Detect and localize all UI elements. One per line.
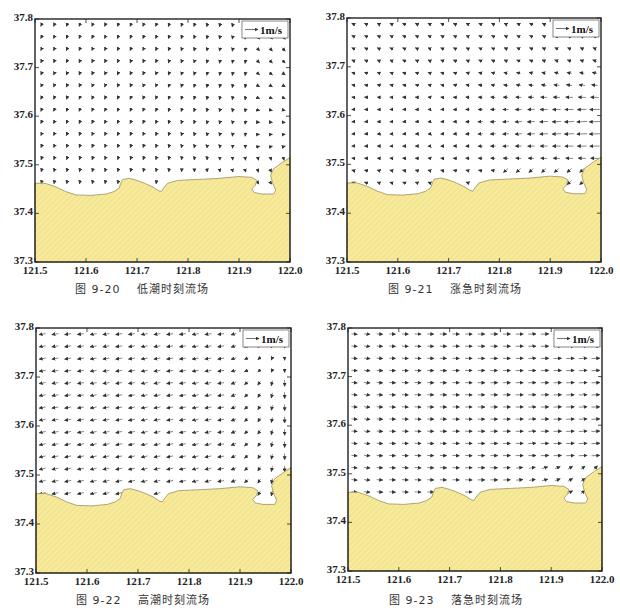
x-tick-label: 121.7 (117, 264, 157, 276)
x-tick-label: 121.6 (66, 264, 106, 276)
y-tick-label: 37.8 (316, 320, 346, 332)
y-tick-label: 37.8 (4, 320, 34, 332)
y-tick-label: 37.6 (3, 108, 33, 120)
x-tick-label: 121.5 (327, 264, 367, 276)
chart-panel-high-tide: 1m/s37.337.437.537.637.737.8121.5121.612… (36, 328, 291, 573)
y-tick-label: 37.7 (4, 369, 34, 381)
y-tick-label: 37.5 (3, 157, 33, 169)
vector-field-plot: 1m/s (347, 18, 601, 262)
vector-field-plot: 1m/s (35, 19, 290, 262)
figure-caption: 图 9-21 涨急时刻流场 (388, 280, 522, 296)
x-tick-label: 121.8 (168, 264, 208, 276)
legend-label: 1m/s (571, 23, 594, 35)
y-tick-label: 37.6 (4, 418, 34, 430)
chart-panel-flood-tide: 1m/s37.337.437.537.637.737.8121.5121.612… (347, 18, 601, 262)
chart-panel-low-tide: 1m/s37.337.437.537.637.737.8121.5121.612… (35, 19, 290, 262)
y-tick-label: 37.6 (316, 417, 346, 429)
x-tick-label: 121.9 (531, 573, 571, 585)
y-tick-label: 37.4 (315, 205, 345, 217)
legend-label: 1m/s (261, 333, 284, 345)
vector-field-plot: 1m/s (348, 328, 602, 571)
x-tick-label: 121.8 (479, 264, 519, 276)
x-tick-label: 121.8 (169, 575, 209, 587)
y-tick-label: 37.8 (3, 11, 33, 23)
x-tick-label: 121.6 (378, 264, 418, 276)
x-tick-label: 121.9 (220, 575, 260, 587)
y-tick-label: 37.4 (316, 514, 346, 526)
x-tick-label: 122.0 (582, 573, 620, 585)
x-tick-label: 121.6 (379, 573, 419, 585)
y-tick-label: 37.7 (3, 60, 33, 72)
legend-label: 1m/s (260, 24, 283, 36)
y-tick-label: 37.4 (4, 516, 34, 528)
y-tick-label: 37.5 (315, 156, 345, 168)
legend-box: 1m/s (553, 20, 599, 37)
chart-panel-ebb-tide: 1m/s37.337.437.537.637.737.8121.5121.612… (348, 328, 602, 571)
legend-box: 1m/s (242, 21, 288, 38)
y-tick-label: 37.5 (4, 467, 34, 479)
x-tick-label: 121.5 (16, 575, 56, 587)
y-tick-label: 37.6 (315, 108, 345, 120)
x-tick-label: 121.6 (67, 575, 107, 587)
y-tick-label: 37.7 (315, 59, 345, 71)
figure-caption: 图 9-22 高潮时刻流场 (76, 591, 210, 607)
legend-label: 1m/s (572, 333, 595, 345)
vector-field-plot: 1m/s (36, 328, 291, 573)
x-tick-label: 121.5 (15, 264, 55, 276)
x-tick-label: 121.7 (429, 264, 469, 276)
x-tick-label: 121.7 (430, 573, 470, 585)
figure-caption: 图 9-23 落急时刻流场 (389, 591, 523, 607)
x-tick-label: 122.0 (270, 264, 310, 276)
y-tick-label: 37.4 (3, 205, 33, 217)
x-tick-label: 121.9 (530, 264, 570, 276)
legend-box: 1m/s (243, 330, 289, 347)
y-tick-label: 37.8 (315, 10, 345, 22)
legend-box: 1m/s (554, 330, 600, 347)
y-tick-label: 37.5 (316, 466, 346, 478)
figure-caption: 图 9-20 低潮时刻流场 (75, 280, 209, 296)
x-tick-label: 121.5 (328, 573, 368, 585)
x-tick-label: 121.8 (480, 573, 520, 585)
x-tick-label: 121.7 (118, 575, 158, 587)
x-tick-label: 122.0 (271, 575, 311, 587)
y-tick-label: 37.7 (316, 369, 346, 381)
x-tick-label: 122.0 (581, 264, 620, 276)
x-tick-label: 121.9 (219, 264, 259, 276)
